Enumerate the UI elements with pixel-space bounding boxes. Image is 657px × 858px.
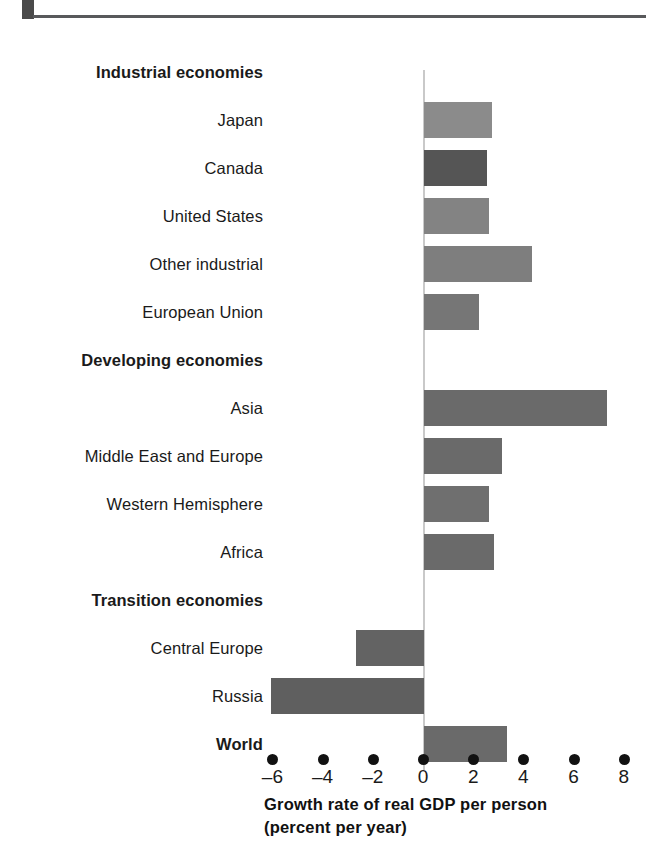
bar-canada (424, 150, 487, 186)
category-label: European Union (0, 290, 263, 334)
bar-russia (271, 678, 424, 714)
category-label: Japan (0, 98, 263, 142)
chart-bar-row: United States (0, 194, 657, 238)
x-axis-tick-labels: –6–4–202468 (0, 764, 657, 790)
category-label: Middle East and Europe (0, 434, 263, 478)
x-tick-label: 6 (554, 764, 594, 790)
x-axis-title: Growth rate of real GDP per person (perc… (264, 793, 654, 839)
chart-bar-row: Middle East and Europe (0, 434, 657, 478)
x-tick-label: 2 (453, 764, 493, 790)
x-tick-label: 8 (604, 764, 644, 790)
category-label: Russia (0, 674, 263, 718)
x-tick-label: 0 (403, 764, 443, 790)
x-axis-title-line-1: Growth rate of real GDP per person (264, 795, 547, 813)
x-tick-label: –4 (303, 764, 343, 790)
chart-bar-row: Asia (0, 386, 657, 430)
chart-group-heading-row: Transition economies (0, 578, 657, 622)
bar-japan (424, 102, 492, 138)
x-tick-label: 4 (503, 764, 543, 790)
chart-bar-row: Other industrial (0, 242, 657, 286)
chart-bar-row: Central Europe (0, 626, 657, 670)
bar-united-states (424, 198, 489, 234)
chart-bar-row: Russia (0, 674, 657, 718)
group-heading-label: Transition economies (0, 578, 263, 622)
chart-bar-row: Western Hemisphere (0, 482, 657, 526)
chart-bar-row: European Union (0, 290, 657, 334)
chart-bar-row: Africa (0, 530, 657, 574)
chart-group-heading-row: Industrial economies (0, 50, 657, 94)
bar-european-union (424, 294, 479, 330)
category-label: Other industrial (0, 242, 263, 286)
category-label: Central Europe (0, 626, 263, 670)
bar-other-industrial (424, 246, 532, 282)
category-label: United States (0, 194, 263, 238)
bar-central-europe (356, 630, 424, 666)
group-heading-label: Industrial economies (0, 50, 263, 94)
category-label: Canada (0, 146, 263, 190)
x-tick-label: –2 (353, 764, 393, 790)
category-label: Africa (0, 530, 263, 574)
category-label: Western Hemisphere (0, 482, 263, 526)
group-heading-label: Developing economies (0, 338, 263, 382)
chart-group-heading-row: Developing economies (0, 338, 657, 382)
bar-africa (424, 534, 494, 570)
bar-middle-east-and-europe (424, 438, 502, 474)
chart-bar-row: Japan (0, 98, 657, 142)
category-label: Asia (0, 386, 263, 430)
bar-asia (424, 390, 607, 426)
bar-western-hemisphere (424, 486, 489, 522)
bar-chart: Industrial economiesJapanCanadaUnited St… (0, 0, 657, 858)
x-tick-label: –6 (252, 764, 292, 790)
x-axis-title-line-2: (percent per year) (264, 816, 654, 839)
chart-bar-row: Canada (0, 146, 657, 190)
